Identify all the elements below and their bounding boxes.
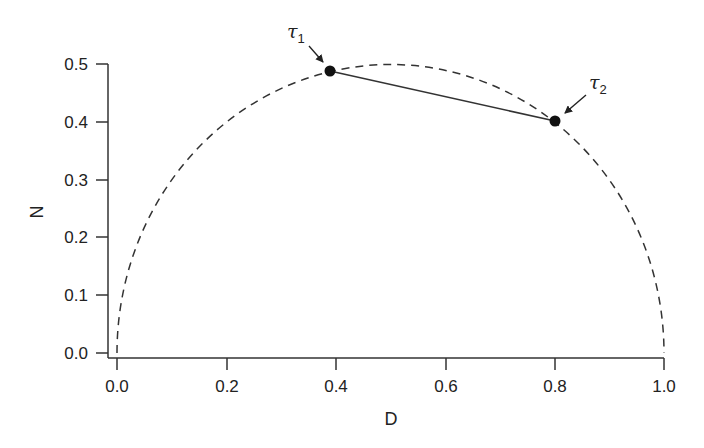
semicircle-dashed-curve [117,65,664,354]
y-tick-label: 0.5 [64,55,88,74]
tau2-label: τ2 [589,71,607,97]
x-tick-labels: 0.0 0.2 0.4 0.6 0.8 1.0 [105,377,676,396]
tau-segment [330,71,555,121]
tau1-label: τ1 [287,20,305,46]
tau1-arrow [309,46,323,62]
y-tick-label: 0.4 [64,113,88,132]
y-tick-label: 0.1 [64,286,88,305]
x-tick-label: 0.6 [434,377,458,396]
y-axis-title: N [27,206,47,219]
y-ticks [96,64,108,353]
x-tick-label: 0.0 [105,377,129,396]
x-axis-title: D [385,409,398,429]
x-tick-label: 0.2 [215,377,239,396]
x-ticks [117,358,664,370]
x-tick-label: 1.0 [652,377,676,396]
tau2-arrow [565,95,586,113]
y-tick-label: 0.3 [64,171,88,190]
x-tick-label: 0.4 [324,377,348,396]
y-tick-label: 0.2 [64,228,88,247]
y-tick-labels: 0.5 0.4 0.3 0.2 0.1 0.0 [64,55,88,363]
tau1-point [325,66,336,77]
tau2-point [550,116,561,127]
x-tick-label: 0.8 [543,377,567,396]
y-tick-label: 0.0 [64,344,88,363]
chart: 0.5 0.4 0.3 0.2 0.1 0.0 0.0 0.2 0.4 0.6 … [0,0,704,448]
